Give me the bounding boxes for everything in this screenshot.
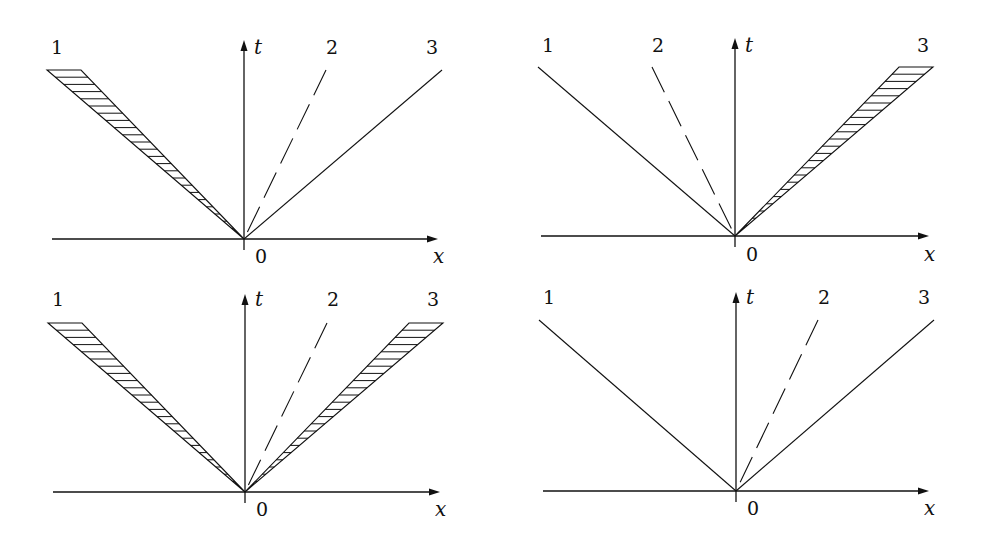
panel-top-right: tx0123 [538,33,935,266]
t-axis-arrow-icon [733,292,740,303]
ray-label: 2 [818,286,830,308]
solid-ray-line [244,70,442,239]
ray-label: 3 [917,34,929,56]
ray-2: 2 [736,286,830,491]
ray-label: 1 [52,288,64,310]
ray-1: 1 [48,288,245,492]
origin-label: 0 [747,497,759,519]
solid-ray-line [538,67,735,236]
x-axis-label: x [924,242,935,266]
t-axis-label: t [746,285,755,309]
t-axis-arrow-icon [242,294,249,305]
ray-2: 2 [245,288,339,492]
ray-3: 3 [244,36,442,239]
ray-2: 2 [244,36,338,239]
panel-bottom-right: tx0123 [539,285,935,520]
dashed-ray-line [652,67,735,236]
solid-ray-line [539,320,736,491]
x-axis-arrow-icon [427,236,438,243]
wave-diagram-figure: tx0123tx0123tx0123tx0123 [0,0,983,540]
hatched-wedge [47,70,244,239]
hatched-wedge [245,323,443,492]
ray-2: 2 [652,34,735,236]
x-axis-arrow-icon [429,489,440,496]
ray-label: 3 [427,288,439,310]
hatched-wedge [48,323,245,492]
ray-1: 1 [539,286,736,491]
ray-1: 1 [538,34,735,236]
t-axis-arrow-icon [241,40,248,51]
ray-label: 2 [326,36,338,58]
hatched-wedge [735,67,933,236]
dashed-ray-line [245,323,327,492]
panel-top-left: tx0123 [47,35,444,268]
ray-3: 3 [245,288,443,492]
panel-bottom-left: tx0123 [48,287,446,521]
ray-3: 3 [736,286,934,491]
ray-label: 1 [542,34,554,56]
t-axis-label: t [254,35,263,59]
origin-label: 0 [746,243,758,265]
ray-3: 3 [735,34,933,236]
dashed-ray-line [244,70,326,239]
dashed-ray-line [736,320,818,491]
x-axis-arrow-icon [918,233,929,240]
x-axis-label: x [433,244,444,268]
origin-label: 0 [256,498,268,520]
ray-label: 2 [327,288,339,310]
x-axis-arrow-icon [918,488,929,495]
origin-label: 0 [255,245,267,267]
t-axis-label: t [255,287,264,311]
ray-label: 2 [652,34,664,56]
t-axis-arrow-icon [732,38,739,49]
solid-ray-line [736,320,934,491]
ray-1: 1 [47,36,244,239]
ray-label: 1 [51,36,63,58]
x-axis-label: x [924,496,935,520]
ray-label: 3 [918,286,930,308]
x-axis-label: x [435,497,446,521]
ray-label: 1 [543,286,555,308]
ray-label: 3 [426,36,438,58]
t-axis-label: t [745,33,754,57]
